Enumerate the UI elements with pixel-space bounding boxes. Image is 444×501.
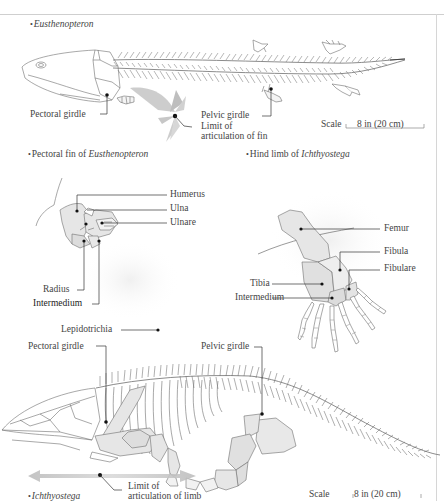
label-pelvic-girdle-ichthyostega: Pelvic girdle	[201, 341, 249, 352]
scale-label-1: Scale	[321, 119, 342, 130]
caption-eusthenopteron: •Eusthenopteron	[30, 19, 94, 30]
label-humerus: Humerus	[170, 189, 205, 200]
label-tibia: Tibia	[250, 278, 270, 289]
fin-rotation-fan	[130, 88, 186, 142]
label-limit-articulation-limb-2: articulation of limb	[128, 491, 201, 501]
caption-hind-limb: •Hind limb of Ichthyostega	[246, 149, 350, 160]
ichthyostega-skeleton	[2, 364, 440, 492]
scale-value-2: 8 in (20 cm)	[354, 489, 401, 500]
label-intermedium-hind: Intermedium	[235, 292, 284, 303]
caption-pectoral-fin: •Pectoral fin of Eusthenopteron	[28, 149, 148, 160]
label-ulna: Ulna	[170, 203, 188, 214]
label-intermedium-fin: Intermedium	[33, 298, 82, 309]
label-pectoral-girdle-ichthyostega: Pectoral girdle	[28, 341, 84, 352]
pectoral-fin-bones	[36, 178, 118, 248]
label-radius: Radius	[43, 284, 69, 295]
scale-label-2: Scale	[309, 489, 330, 500]
label-limit-articulation-fin-2: articulation of fin	[201, 131, 267, 142]
label-pelvic-girdle-eusthenopteron: Pelvic girdle	[201, 110, 249, 121]
label-lepidotrichia: Lepidotrichia	[61, 324, 112, 335]
skeleton-illustrations	[0, 0, 444, 501]
label-fibulare: Fibulare	[384, 263, 416, 274]
label-pectoral-girdle-eusthenopteron: Pectoral girdle	[30, 109, 86, 120]
eusthenopteron-skeleton	[22, 40, 405, 104]
scale-value-1: 8 in (20 cm)	[357, 119, 404, 130]
label-ulnare: Ulnare	[170, 217, 196, 228]
caption-ichthyostega: •Ichthyostega	[28, 491, 80, 501]
label-femur: Femur	[384, 223, 409, 234]
label-fibula: Fibula	[384, 246, 408, 257]
